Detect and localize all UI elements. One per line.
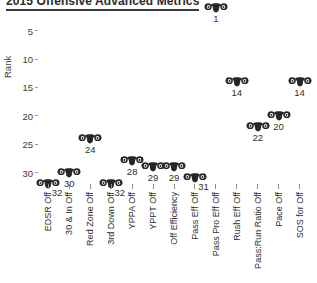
y-axis-tick: 20 [22, 110, 33, 121]
x-axis-tick-mark [174, 184, 175, 189]
data-point-label: 14 [294, 86, 305, 97]
data-point[interactable]: 14 [288, 75, 312, 88]
x-axis-tick-mark [132, 184, 133, 189]
data-point[interactable]: 20 [267, 109, 291, 122]
x-axis-tick-mark [299, 184, 300, 189]
x-axis-tick-label: Red Zone Off [85, 192, 95, 246]
x-axis-tick-mark [90, 184, 91, 189]
x-axis-tick-label: Off Efficiency [169, 192, 179, 245]
x-axis-tick-mark [194, 184, 195, 189]
x-axis-tick-mark [278, 184, 279, 189]
y-axis-tick: 15 [22, 82, 33, 93]
y-axis-tick: 30 [22, 167, 33, 178]
x-axis: EDSR Off30 & In OffRed Zone Off3rd Down … [38, 184, 310, 283]
y-axis-tick-mark [35, 172, 38, 173]
data-point-label: 1 [213, 13, 218, 24]
x-axis-tick-label: EDSR Off [43, 192, 53, 231]
x-axis-tick-mark [215, 184, 216, 189]
x-axis-tick-mark [257, 184, 258, 189]
x-axis-tick-label: Rush Eff Off [232, 192, 242, 241]
data-point[interactable]: 22 [246, 121, 270, 134]
y-axis-tick-mark [35, 59, 38, 60]
data-point[interactable]: 1 [204, 2, 228, 15]
y-axis-tick-mark [35, 144, 38, 145]
data-point-label: 22 [252, 132, 263, 143]
data-point[interactable]: 14 [225, 75, 249, 88]
data-point-label: 29 [169, 171, 180, 182]
data-point-label: 28 [127, 166, 138, 177]
data-point-label: 24 [85, 143, 96, 154]
y-axis-label: Rank [2, 56, 13, 78]
y-axis-tick: 5 [28, 25, 33, 36]
y-axis-tick-mark [35, 30, 38, 31]
plot-area: 51015202530 32 30 24 32 28 29 29 31 1 14… [38, 8, 310, 184]
y-axis-tick: 25 [22, 139, 33, 150]
data-point[interactable]: 30 [57, 166, 81, 179]
x-axis-tick-label: 30 & In Off [64, 192, 74, 235]
data-point[interactable]: 31 [183, 172, 207, 185]
y-axis-tick: 10 [22, 54, 33, 65]
x-axis-tick-mark [111, 184, 112, 189]
x-axis-tick-label: Pass Pro Eff Off [211, 192, 221, 256]
x-axis-tick-label: Pass Eff Off [190, 192, 200, 240]
x-axis-tick-label: YPPA Off [127, 192, 137, 229]
x-axis-tick-mark [48, 184, 49, 189]
x-axis-tick-mark [69, 184, 70, 189]
data-point-label: 29 [148, 171, 159, 182]
data-point[interactable]: 24 [78, 132, 102, 145]
x-axis-tick-label: SOS for Off [295, 192, 305, 238]
chart-container: 2015 Offensive Advanced Metrics 51015202… [0, 0, 317, 283]
x-axis-tick-mark [236, 184, 237, 189]
data-point-label: 20 [273, 120, 284, 131]
x-axis-tick-label: YPPT Off [148, 192, 158, 230]
y-axis-tick-mark [35, 115, 38, 116]
x-axis-tick-label: Pace Off [274, 192, 284, 227]
y-axis-tick-mark [35, 87, 38, 88]
x-axis-tick-label: 3rd Down Off [106, 192, 116, 245]
x-axis-tick-label: Pass:Run Ratio Off [253, 192, 263, 269]
x-axis-tick-mark [153, 184, 154, 189]
data-point-label: 14 [231, 86, 242, 97]
